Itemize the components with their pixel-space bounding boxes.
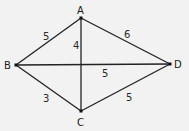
edge-a-c-weight: 4 xyxy=(73,40,79,51)
graph-svg: A B C D 5 6 4 5 3 5 xyxy=(0,0,189,131)
vertex-b-label: B xyxy=(4,60,11,71)
vertex-d-label: D xyxy=(174,59,182,70)
edge-b-c-weight: 3 xyxy=(43,93,49,104)
edge-c-d xyxy=(81,64,170,111)
vertex-a-dot xyxy=(80,17,83,20)
edge-b-c xyxy=(16,65,81,111)
vertex-c-dot xyxy=(80,110,83,113)
vertex-d-dot xyxy=(169,63,172,66)
edge-a-d xyxy=(81,18,170,64)
edge-a-d-weight: 6 xyxy=(124,29,130,40)
graph-diagram: A B C D 5 6 4 5 3 5 xyxy=(0,0,189,131)
edge-a-b-weight: 5 xyxy=(43,31,49,42)
vertex-b-dot xyxy=(15,64,18,67)
edge-b-d-weight: 5 xyxy=(102,68,108,79)
vertex-a-label: A xyxy=(77,5,84,16)
vertex-c-label: C xyxy=(77,117,84,128)
edge-c-d-weight: 5 xyxy=(126,92,132,103)
edge-b-d xyxy=(16,64,170,65)
